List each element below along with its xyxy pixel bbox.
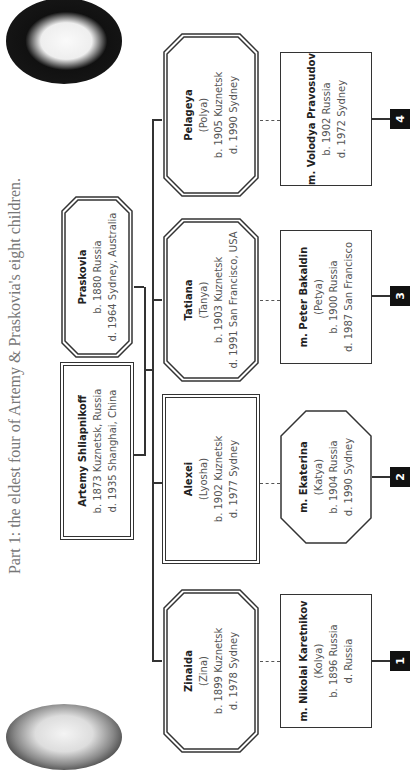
parent-box-artemy: Artemy Shliapnikoff b. 1873 Kuznetsk, Ru… (60, 362, 134, 540)
child-name: Tatiana (181, 279, 196, 320)
spouse-born: b. 1896 Russia (326, 624, 341, 698)
parent-box-praskovia: Praskovia b. 1880 Russia d. 1964 Sydney,… (60, 195, 134, 359)
child-born: b. 1903 Kuznetsk (211, 257, 226, 343)
child-died: d. 1977 Sydney (226, 440, 241, 518)
spouse-died: d. 1987 San Francisco (341, 242, 356, 352)
child-name: Pelageya (181, 89, 196, 141)
badge-connector-2 (372, 477, 390, 479)
marriage-line-3 (260, 300, 280, 301)
badge-connector-4 (372, 119, 390, 121)
parent-drop-line (144, 370, 152, 372)
spouse-died: d. 1972 Sydney (334, 80, 349, 158)
badge-connector-3 (372, 296, 390, 298)
portrait-photo-left (6, 704, 122, 770)
child-box-pelageya: Pelageya (Polya) b. 1905 Kuznetsk d. 199… (162, 32, 260, 198)
spouse-name: m. Ekaterina (296, 441, 311, 513)
spouse-box-nikolai: m. Nikolai Karetnikov (Kolya) b. 1896 Ru… (280, 594, 372, 728)
parent-died: d. 1935 Shanghai, China (105, 390, 120, 513)
family-number-badge-3: 3 (390, 286, 410, 306)
family-number-badge-1: 1 (390, 651, 410, 671)
parent-connector-artemy (134, 455, 144, 457)
page-title: Part 1: the eldest four of Artemy & Pras… (6, 146, 24, 606)
child-name: Alexei (181, 462, 196, 497)
spouse-name: m. Nikolai Karetnikov (296, 600, 311, 721)
parent-born: b. 1880 Russia (90, 240, 105, 314)
spouse-born: b. 1904 Russia (326, 440, 341, 514)
child-drop-1 (152, 661, 162, 663)
child-nickname: (Zina) (196, 656, 211, 686)
family-number-badge-2: 2 (390, 467, 410, 487)
child-box-tatiana: Tatiana (Tanya) b. 1903 Kuznetsk d. 1991… (162, 217, 260, 383)
parent-name: Praskovia (75, 250, 90, 305)
child-drop-2 (152, 483, 162, 485)
child-name: Zinaida (181, 650, 196, 692)
child-nickname: (Tanya) (196, 282, 211, 319)
spouse-name: m. Peter Bakaldin (296, 247, 311, 348)
parent-died: d. 1964 Sydney, Australia (105, 213, 120, 342)
spouse-died: d. Russia (341, 639, 356, 684)
spouse-nickname: (Petya) (311, 279, 326, 315)
parent-born: b. 1873 Kuznetsk, Russia (90, 389, 105, 514)
family-tree-canvas: Part 1: the eldest four of Artemy & Pras… (0, 0, 415, 776)
marriage-line-2 (260, 483, 280, 484)
spouse-nickname: (Kolya) (311, 644, 326, 679)
parent-connector-praskovia (134, 287, 144, 289)
child-born: b. 1899 Kuznetsk (211, 628, 226, 714)
child-nickname: (Lyosha) (196, 458, 211, 500)
marriage-line-4 (260, 120, 280, 121)
child-box-alexei: Alexei (Lyosha) b. 1902 Kuznetsk d. 1977… (162, 394, 260, 564)
spouse-born: b. 1900 Russia (326, 260, 341, 334)
spouse-box-ekaterina: m. Ekaterina (Katya) b. 1904 Russia d. 1… (280, 410, 372, 544)
child-drop-3 (152, 300, 162, 302)
children-bus-line (152, 120, 154, 662)
badge-connector-1 (372, 661, 390, 663)
child-died: d. 1990 Sydney (226, 76, 241, 154)
spouse-box-peter: m. Peter Bakaldin (Petya) b. 1900 Russia… (280, 230, 372, 364)
family-number-badge-4: 4 (390, 109, 410, 129)
spouse-name: m. Volodya Pravosudov (304, 53, 319, 185)
child-died: d. 1978 Sydney (226, 632, 241, 710)
parent-name: Artemy Shliapnikoff (75, 395, 90, 507)
spouse-nickname: (Katya) (311, 459, 326, 495)
child-died: d. 1991 San Francisco, USA (226, 231, 241, 368)
spouse-died: d. 1990 Sydney (341, 438, 356, 516)
portrait-photo-right (6, 0, 122, 84)
spouse-born: b. 1902 Russia (319, 82, 334, 156)
marriage-line-1 (260, 661, 280, 662)
child-born: b. 1905 Kuznetsk (211, 72, 226, 158)
child-drop-4 (152, 120, 162, 122)
spouse-box-volodya: m. Volodya Pravosudov b. 1902 Russia d. … (280, 52, 372, 186)
child-born: b. 1902 Kuznetsk (211, 436, 226, 522)
parent-marriage-line (144, 287, 146, 456)
child-nickname: (Polya) (196, 98, 211, 132)
child-box-zinaida: Zinaida (Zina) b. 1899 Kuznetsk d. 1978 … (162, 588, 260, 754)
